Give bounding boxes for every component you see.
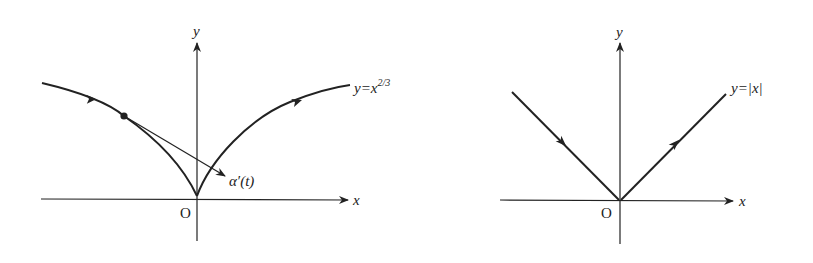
direction-arrow-icon xyxy=(86,95,96,104)
graph-right-ray xyxy=(621,94,726,200)
x-axis-label: x xyxy=(352,192,360,208)
x-axis-label: x xyxy=(738,193,746,209)
direction-arrow-icon xyxy=(669,137,682,150)
x-axis xyxy=(500,200,733,201)
origin-label: O xyxy=(601,205,612,221)
curve-label: y=x2/3 xyxy=(352,77,390,96)
cusp-diagram: y x O α′(t) y=x2/3 xyxy=(41,23,390,241)
y-axis-label: y xyxy=(614,24,623,40)
curve-label: y=|x| xyxy=(729,80,763,96)
graph-left-ray xyxy=(512,92,619,200)
curve-right-branch xyxy=(197,85,350,196)
tangent-vector xyxy=(124,116,225,176)
origin-label: O xyxy=(180,205,191,221)
figure-canvas: y x O α′(t) y=x2/3 y x O y=|x| xyxy=(0,0,813,263)
tangent-label: α′(t) xyxy=(229,173,254,190)
curve-left-branch xyxy=(42,83,197,196)
abs-diagram: y x O y=|x| xyxy=(500,24,763,244)
y-axis-label: y xyxy=(191,23,200,39)
direction-arrow-icon xyxy=(291,99,302,107)
x-axis xyxy=(41,199,348,200)
